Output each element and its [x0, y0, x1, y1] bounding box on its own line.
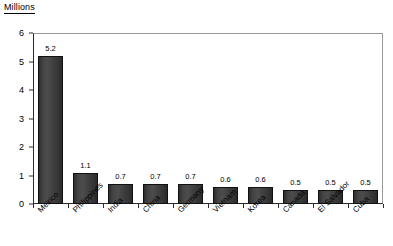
bar-group[interactable]: 0.5 [318, 33, 343, 204]
y-tick-label: 4 [19, 86, 24, 95]
bar-value-label: 5.2 [45, 45, 55, 53]
bar-value-label: 0.6 [255, 176, 265, 184]
y-tick-label: 2 [19, 143, 24, 152]
bar[interactable] [38, 56, 63, 204]
x-tick-mark [173, 204, 174, 208]
x-tick-mark [103, 204, 104, 208]
x-tick-mark [68, 204, 69, 208]
bar-group[interactable]: 0.5 [353, 33, 378, 204]
x-tick-mark [383, 204, 384, 208]
bar-group[interactable]: 1.1 [73, 33, 98, 204]
bar-value-label: 0.5 [290, 179, 300, 187]
bar-group[interactable]: 0.7 [178, 33, 203, 204]
y-tick-label: 5 [19, 57, 24, 66]
y-tick-label: 1 [19, 171, 24, 180]
bar-group[interactable]: 0.6 [248, 33, 273, 204]
y-axis: 0123456 [0, 0, 33, 246]
bars-layer: 5.21.10.70.70.70.60.60.50.50.5 [33, 33, 383, 204]
bar-chart: Millions 0123456 5.21.10.70.70.70.60.60.… [0, 0, 393, 246]
x-tick-mark [33, 204, 34, 208]
y-tick-label: 6 [19, 29, 24, 38]
bar-value-label: 0.5 [360, 179, 370, 187]
x-tick-mark [243, 204, 244, 208]
bar-group[interactable]: 5.2 [38, 33, 63, 204]
bar-group[interactable]: 0.5 [283, 33, 308, 204]
bar-value-label: 0.5 [325, 179, 335, 187]
x-axis: MexicoPhilippinesIndiaChinaGermanyVietna… [33, 208, 383, 246]
bar-group[interactable]: 0.7 [108, 33, 133, 204]
bar-value-label: 1.1 [80, 162, 90, 170]
bar-group[interactable]: 0.7 [143, 33, 168, 204]
y-tick-label: 3 [19, 114, 24, 123]
bar-value-label: 0.7 [115, 173, 125, 181]
bar-value-label: 0.7 [150, 173, 160, 181]
bar-value-label: 0.6 [220, 176, 230, 184]
x-tick-mark [313, 204, 314, 208]
x-tick-mark [138, 204, 139, 208]
y-tick-label: 0 [19, 200, 24, 209]
x-tick-mark [348, 204, 349, 208]
x-tick-mark [278, 204, 279, 208]
bar-group[interactable]: 0.6 [213, 33, 238, 204]
bar-value-label: 0.7 [185, 173, 195, 181]
x-tick-mark [208, 204, 209, 208]
